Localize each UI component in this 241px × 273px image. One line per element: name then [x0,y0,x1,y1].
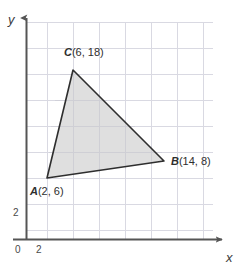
x-axis-label: x [226,251,233,264]
y-axis-tick-label-2: 2 [13,208,19,218]
coordinate-plane-figure: y x 0 2 2 A(2, 6) B(14, 8) C(6, 18) [0,0,241,273]
triangle-plot-svg [0,0,241,273]
vertex-b-name: B [171,155,179,167]
vertex-a-name: A [30,185,38,197]
vertex-label-c: C(6, 18) [64,47,104,58]
origin-tick-label: 0 [15,245,21,255]
vertex-b-coords: (14, 8) [179,155,211,167]
y-axis-label: y [8,13,15,26]
x-axis-tick-label-2: 2 [36,245,42,255]
vertex-label-a: A(2, 6) [30,186,64,197]
vertex-a-coords: (2, 6) [38,185,64,197]
vertex-c-coords: (6, 18) [72,46,104,58]
triangle-abc-fill [47,70,164,178]
vertex-c-name: C [64,46,72,58]
vertex-label-b: B(14, 8) [171,156,211,167]
